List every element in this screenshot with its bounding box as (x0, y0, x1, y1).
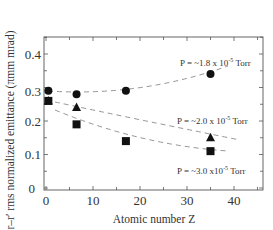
trend-line-1.8 (48, 66, 228, 92)
circle-marker (73, 90, 81, 98)
y-tick-0.3: 0.3 (25, 84, 41, 99)
x-tick-20: 20 (134, 193, 147, 208)
x-axis-title: Atomic number Z (113, 213, 195, 225)
y-tick-0.4: 0.4 (25, 47, 42, 62)
circle-marker (122, 87, 130, 95)
triangle-marker (206, 133, 215, 142)
y-tick-0.1: 0.1 (25, 147, 41, 162)
x-tick-0: 0 (43, 193, 50, 208)
square-marker (44, 97, 52, 105)
annotation-2.0: P = ~2.0 x 10-5 Torr (177, 115, 248, 126)
x-tick-labels: 0 10 20 30 40 (43, 193, 241, 208)
emittance-chart: 0 10 20 30 40 0 0.1 0.2 0.3 0.4 Atomic n… (0, 0, 273, 230)
y-tick-0: 0 (29, 181, 36, 196)
annotation-3.0: P = ~3.0 x10-5 Torr (177, 165, 246, 176)
y-axis-title: r–r′ rms normalized emittance (πmm mrad) (4, 30, 17, 229)
y-tick-0.2: 0.2 (25, 114, 41, 129)
square-marker (207, 147, 215, 155)
circle-marker (44, 87, 52, 95)
annotation-1.8: P = ~1.8 x 10-5 Torr (180, 57, 251, 68)
circle-marker (207, 70, 215, 78)
y-tick-labels: 0 0.1 0.2 0.3 0.4 (25, 47, 42, 196)
x-tick-40: 40 (228, 193, 241, 208)
x-tick-30: 30 (181, 193, 194, 208)
square-marker (122, 137, 130, 145)
x-tick-10: 10 (87, 193, 100, 208)
data-markers (44, 70, 215, 155)
square-marker (73, 120, 81, 128)
triangle-marker (72, 103, 81, 112)
